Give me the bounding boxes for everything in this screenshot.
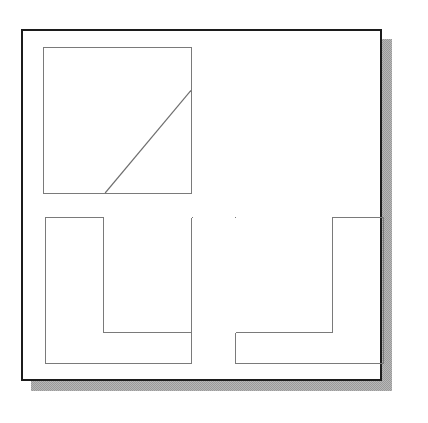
- outer-frame: [21, 29, 382, 381]
- seam-mask-bottom-left-top: [104, 217, 192, 218]
- seam-mask-bottom-left-right: [192, 218, 193, 333]
- seam-mask-bottom-right-top: [236, 217, 332, 218]
- panel-bottom-right-inner: [235, 217, 333, 333]
- panel-bottom-left-inner: [103, 217, 193, 333]
- figure-canvas: [0, 0, 428, 423]
- diagonal-line-icon: [44, 48, 191, 193]
- panel-top-left: [43, 47, 192, 194]
- seam-mask-bottom-right-left: [235, 218, 236, 333]
